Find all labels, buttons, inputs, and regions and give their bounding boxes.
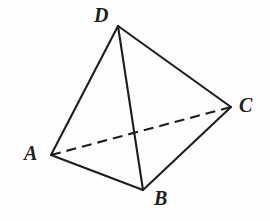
vertex-label-D: D — [94, 5, 108, 25]
edge-AD — [51, 26, 118, 155]
edge-BC — [143, 107, 231, 190]
vertex-label-B: B — [154, 188, 167, 208]
vertex-label-C: C — [239, 95, 252, 115]
edge-DC — [118, 26, 231, 107]
edge-AB — [51, 155, 143, 190]
figure-canvas: A B C D — [0, 0, 270, 221]
vertex-label-A: A — [24, 143, 37, 163]
tetrahedron-drawing — [0, 0, 270, 221]
edge-DB — [118, 26, 143, 190]
edge-AC-hidden — [51, 107, 231, 155]
